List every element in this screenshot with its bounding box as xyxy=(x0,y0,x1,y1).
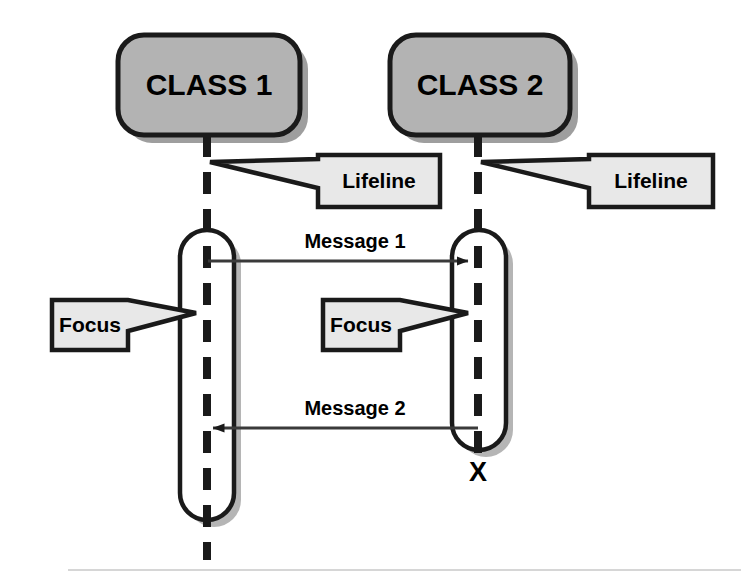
termination-x-mark: X xyxy=(469,457,487,487)
class-box-class-1[interactable]: CLASS 1 xyxy=(118,35,308,143)
diagram-canvas: CLASS 1 CLASS 2 Message 1 Messa xyxy=(0,0,741,586)
message-2-label: Message 2 xyxy=(304,397,405,419)
message-1-group[interactable]: Message 1 xyxy=(208,230,468,261)
callout-focus-1-label: Focus xyxy=(59,313,121,336)
callout-lifeline-2-label: Lifeline xyxy=(614,169,688,192)
class-box-label-class-1: CLASS 1 xyxy=(146,68,273,101)
message-2-group[interactable]: Message 2 xyxy=(213,397,478,428)
callout-focus-2-label: Focus xyxy=(330,313,392,336)
callout-lifeline-1-label: Lifeline xyxy=(342,169,416,192)
message-1-label: Message 1 xyxy=(304,230,405,252)
callout-lifeline-1[interactable]: Lifeline xyxy=(210,155,440,207)
callout-focus-1[interactable]: Focus xyxy=(52,300,196,350)
callout-lifeline-2[interactable]: Lifeline xyxy=(481,155,713,207)
callout-focus-2[interactable]: Focus xyxy=(323,300,468,350)
class-box-label-class-2: CLASS 2 xyxy=(417,68,544,101)
class-box-class-2[interactable]: CLASS 2 xyxy=(390,35,578,143)
sequence-diagram-svg: CLASS 1 CLASS 2 Message 1 Messa xyxy=(0,0,741,586)
activation-bar-class-2[interactable] xyxy=(452,230,513,457)
